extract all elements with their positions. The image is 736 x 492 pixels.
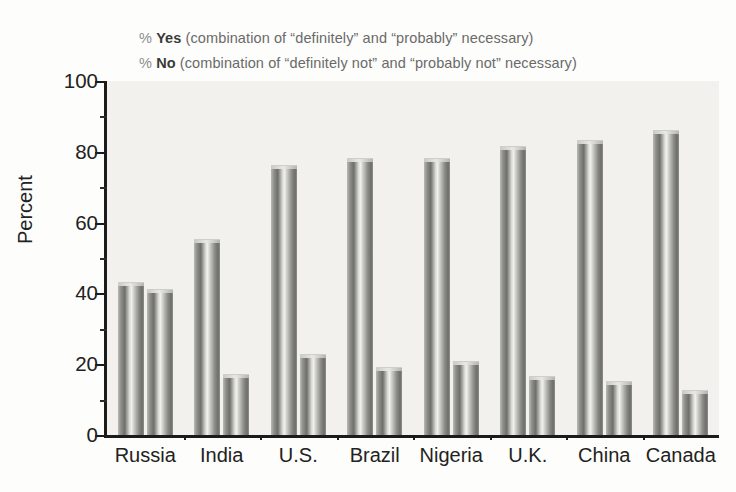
bar-cap <box>271 166 297 169</box>
y-axis-tick-label-20: 20 <box>75 352 98 376</box>
bar-cap <box>118 283 144 286</box>
bar-cap <box>194 240 220 243</box>
x-axis-label-uk: U.K. <box>508 444 547 467</box>
bar-india-yes <box>194 239 220 435</box>
bar-cap <box>682 391 708 394</box>
legend-description-no: (combination of “definitely not” and “pr… <box>180 55 577 71</box>
x-axis-tick-6 <box>566 435 568 440</box>
bar-cap <box>653 131 679 134</box>
bar-brazil-no <box>376 367 402 435</box>
y-axis-tick-label-80: 80 <box>75 140 98 164</box>
bar-china-yes <box>577 140 603 435</box>
bar-nigeria-yes <box>424 158 450 435</box>
x-axis-tick-4 <box>413 435 415 440</box>
bar-us-yes <box>271 165 297 435</box>
bar-cap <box>529 377 555 380</box>
bar-russia-no <box>147 289 173 435</box>
legend-percent-symbol-yes: % <box>139 30 152 46</box>
x-axis-label-brazil: Brazil <box>350 444 400 467</box>
bar-canada-no <box>682 390 708 435</box>
y-axis-minor-tick-90 <box>100 116 107 118</box>
bar-canada-yes <box>653 130 679 435</box>
x-axis-tick-7 <box>643 435 645 440</box>
x-axis-label-russia: Russia <box>115 444 176 467</box>
x-axis-tick-3 <box>337 435 339 440</box>
y-axis-title: Percent <box>14 175 37 244</box>
bar-cap <box>500 147 526 150</box>
bar-us-no <box>300 354 326 435</box>
bar-india-no <box>223 374 249 435</box>
bar-cap <box>376 368 402 371</box>
plot-inner: 020406080100RussiaIndiaU.S.BrazilNigeria… <box>107 81 719 435</box>
y-axis-minor-tick-50 <box>100 258 107 260</box>
x-axis-label-nigeria: Nigeria <box>420 444 483 467</box>
y-axis-minor-tick-30 <box>100 329 107 331</box>
plot-area: 020406080100RussiaIndiaU.S.BrazilNigeria… <box>104 81 719 438</box>
legend-row-no: % No (combination of “definitely not” an… <box>139 51 699 76</box>
legend-label-yes: Yes <box>156 30 181 46</box>
x-axis-label-us: U.S. <box>279 444 318 467</box>
bar-uk-yes <box>500 146 526 436</box>
y-axis-tick-label-100: 100 <box>64 69 98 93</box>
chart-legend: % Yes (combination of “definitely” and “… <box>139 26 699 76</box>
y-axis-tick-label-40: 40 <box>75 281 98 305</box>
bar-china-no <box>606 381 632 435</box>
bar-cap <box>223 375 249 378</box>
bar-nigeria-no <box>453 361 479 435</box>
y-axis-tick-label-60: 60 <box>75 211 98 235</box>
bar-cap <box>347 159 373 162</box>
legend-percent-symbol-no: % <box>139 55 152 71</box>
bar-cap <box>453 362 479 365</box>
x-axis-tick-2 <box>260 435 262 440</box>
bar-uk-no <box>529 376 555 435</box>
legend-description-yes: (combination of “definitely” and “probab… <box>186 30 534 46</box>
x-axis-label-canada: Canada <box>646 444 716 467</box>
x-axis-tick-1 <box>184 435 186 440</box>
chart-figure: % Yes (combination of “definitely” and “… <box>0 0 736 492</box>
legend-row-yes: % Yes (combination of “definitely” and “… <box>139 26 699 51</box>
bar-cap <box>300 355 326 358</box>
y-axis-tick-label-0: 0 <box>87 423 98 447</box>
x-axis-label-china: China <box>578 444 630 467</box>
bar-russia-yes <box>118 282 144 435</box>
y-axis-minor-tick-70 <box>100 187 107 189</box>
x-axis-tick-5 <box>490 435 492 440</box>
bar-cap <box>424 159 450 162</box>
bar-cap <box>606 382 632 385</box>
bar-brazil-yes <box>347 158 373 435</box>
y-axis-minor-tick-10 <box>100 400 107 402</box>
bar-cap <box>147 290 173 293</box>
x-axis-label-india: India <box>200 444 243 467</box>
legend-label-no: No <box>156 55 176 71</box>
bar-cap <box>577 141 603 144</box>
